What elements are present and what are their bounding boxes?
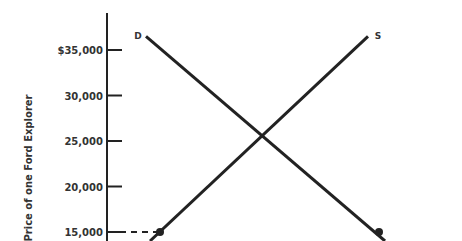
- y-tick-label: 25,000: [64, 136, 103, 147]
- point-marker-D: [375, 228, 383, 236]
- y-tick-label: $35,000: [57, 45, 103, 56]
- curve-label-D: D: [134, 31, 141, 41]
- supply-demand-chart: Price of one Ford Explorer $35,00030,000…: [0, 0, 462, 241]
- y-tick-label: 20,000: [64, 182, 103, 193]
- curve-label-S: S: [375, 31, 381, 41]
- y-tick-label: 30,000: [64, 91, 103, 102]
- point-marker-S: [156, 228, 164, 236]
- y-axis-title: Price of one Ford Explorer: [23, 94, 34, 241]
- y-tick-label: 15,000: [64, 227, 103, 238]
